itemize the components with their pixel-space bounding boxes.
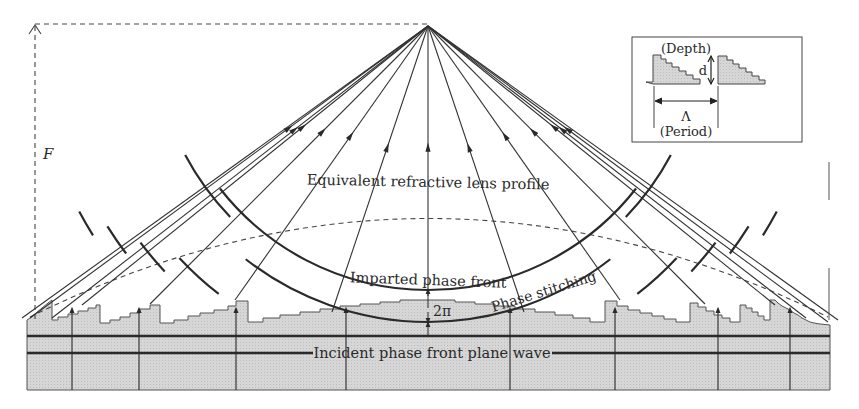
two-pi-label: 2π [433,303,451,319]
phase-front-arc-segment [140,243,164,272]
inset-period-label: (Period) [660,124,713,139]
ray-arrowhead-icon [425,143,430,152]
ray-arrowhead-icon [467,143,472,153]
inset-period-symbol: Λ [680,109,691,124]
ray-line [235,26,428,300]
phase-front-arc-segment [637,258,676,294]
phase-front-arc-segment [763,211,777,235]
inset-frame [632,37,802,142]
focal-length-label: F [42,145,54,163]
ray-line [82,26,428,305]
phase-front-arc-segment [79,211,93,235]
inset-depth-symbol: d [699,63,707,78]
ray-line [428,26,524,312]
ray-arrowhead-icon [502,132,509,141]
ray-line [332,26,428,312]
ray-line [428,26,620,300]
ray-arrowhead-icon [346,132,353,141]
equivalent-lens-label: Equivalent refractive lens profile [307,171,550,192]
ray-arrowhead-icon [383,143,388,153]
incident-wave-label: Incident phase front plane wave [313,345,550,361]
inset-depth-label: (Depth) [661,41,711,56]
inset-grating-detail: (Depth) d Λ (Period) [632,37,802,142]
phase-front-arc-segment [179,258,218,294]
imparted-front-label: Imparted phase front [350,269,507,290]
diffractive-lens-diagram: F 2π Equivalent refractive lens profile … [0,0,859,409]
phase-front-arc-right-outer [185,155,230,217]
